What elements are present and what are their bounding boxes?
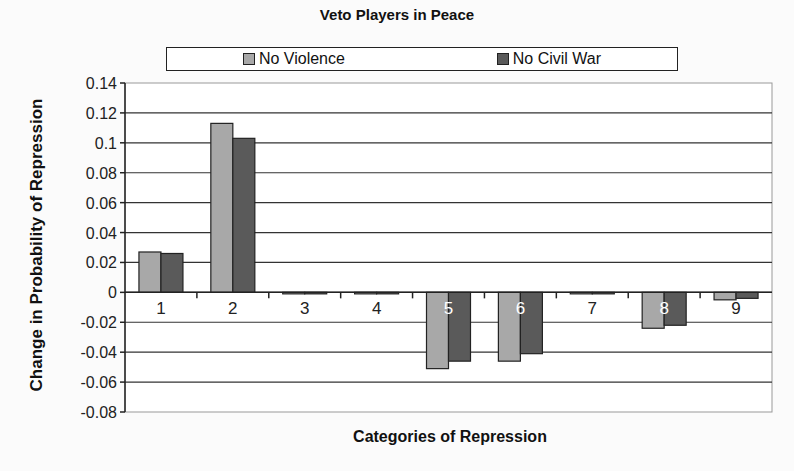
bar bbox=[139, 252, 161, 292]
y-tick-label: 0.12 bbox=[86, 105, 117, 122]
x-tick-label: 9 bbox=[731, 299, 740, 318]
x-tick-label: 3 bbox=[300, 299, 309, 318]
y-tick-label: 0.1 bbox=[95, 135, 117, 152]
y-tick-label: 0.04 bbox=[86, 225, 117, 242]
bar bbox=[233, 138, 255, 292]
bar bbox=[736, 292, 758, 298]
y-tick-label: 0.08 bbox=[86, 165, 117, 182]
x-tick-label: 7 bbox=[588, 299, 597, 318]
x-tick-label: 1 bbox=[156, 299, 165, 318]
x-tick-label: 4 bbox=[372, 299, 381, 318]
x-tick-label: 2 bbox=[228, 299, 237, 318]
bar bbox=[161, 253, 183, 292]
y-tick-label: -0.02 bbox=[81, 314, 118, 331]
x-tick-label: 5 bbox=[444, 299, 453, 318]
x-tick-label: 6 bbox=[516, 299, 525, 318]
plot-area: 0.140.120.10.080.060.040.020-0.02-0.04-0… bbox=[0, 0, 794, 471]
y-tick-label: 0.14 bbox=[86, 75, 117, 92]
y-tick-label: -0.04 bbox=[81, 344, 118, 361]
y-tick-label: -0.08 bbox=[81, 404, 118, 421]
y-tick-label: 0.06 bbox=[86, 195, 117, 212]
y-tick-label: -0.06 bbox=[81, 374, 118, 391]
x-tick-label: 8 bbox=[659, 299, 668, 318]
y-tick-label: 0.02 bbox=[86, 254, 117, 271]
y-tick-label: 0 bbox=[108, 284, 117, 301]
bar bbox=[211, 123, 233, 292]
